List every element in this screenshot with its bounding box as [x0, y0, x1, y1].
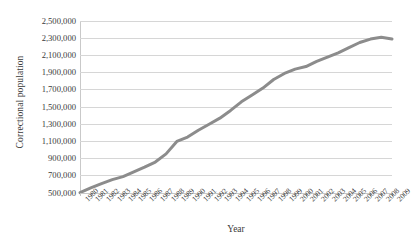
y-axis-tick-label: 1,900,000 [26, 67, 76, 77]
y-axis-tick-labels: 2,500,0002,300,0002,100,0001,900,0001,70… [26, 0, 76, 242]
y-axis-tick-label: 2,300,000 [26, 33, 76, 43]
plot-area [80, 21, 392, 193]
y-axis-tick-label: 900,000 [26, 153, 76, 163]
y-axis-tick-label: 1,100,000 [26, 136, 76, 146]
x-axis-tick [80, 193, 81, 196]
y-axis-tick-label: 2,500,000 [26, 16, 76, 26]
series-correctional-population [80, 21, 392, 193]
y-axis-tick-label: 700,000 [26, 170, 76, 180]
x-axis-tick-labels: 1980198119821983198419851986198719881989… [80, 197, 392, 223]
y-axis-tick-label: 1,500,000 [26, 102, 76, 112]
y-axis-tick-label: 1,300,000 [26, 119, 76, 129]
y-axis-tick-label: 500,000 [26, 188, 76, 198]
x-axis-title: Year [80, 224, 392, 234]
y-axis-tick-label: 1,700,000 [26, 84, 76, 94]
series-line-path [80, 37, 392, 192]
line-chart: Correctional population 2,500,0002,300,0… [0, 0, 412, 242]
y-axis-tick-label: 2,100,000 [26, 50, 76, 60]
